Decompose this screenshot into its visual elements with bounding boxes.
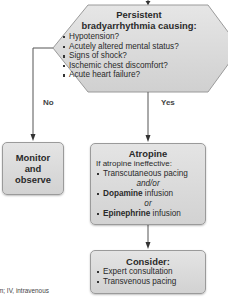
atropine-options-list-3: Epinephrine infusion xyxy=(96,209,200,219)
consider-node: Consider: Expert consultation Transvenou… xyxy=(90,250,206,294)
option-transcutaneous-pacing: Transcutaneous pacing xyxy=(96,169,200,179)
consider-item: Expert consultation xyxy=(96,267,200,277)
decision-criteria-list: Hypotension? Acutely altered mental stat… xyxy=(62,32,222,80)
epinephrine-suffix: infusion xyxy=(150,209,181,218)
footnote: m; IV, intravenous xyxy=(0,287,49,294)
criteria-item: Signs of shock? xyxy=(62,51,222,61)
yes-branch-label: Yes xyxy=(161,98,175,107)
consider-list: Expert consultation Transvenous pacing xyxy=(96,267,200,287)
option-epinephrine: Epinephrine infusion xyxy=(96,209,200,219)
decision-title: Persistent bradyarrhythmia causing: xyxy=(62,9,222,31)
conjunction-or: or xyxy=(96,199,200,209)
atropine-options-list-2: Dopamine infusion xyxy=(96,189,200,199)
consider-item: Transvenous pacing xyxy=(96,277,200,287)
monitor-observe-node: Monitor and observe xyxy=(2,142,64,195)
atropine-title: Atropine xyxy=(96,148,200,159)
option-dopamine: Dopamine infusion xyxy=(96,189,200,199)
conjunction-and-or: and/or xyxy=(96,179,200,189)
no-branch-label: No xyxy=(43,98,54,107)
criteria-item: Hypotension? xyxy=(62,32,222,42)
monitor-line1: Monitor xyxy=(15,152,51,163)
epinephrine-label: Epinephrine xyxy=(103,209,150,218)
dopamine-suffix: infusion xyxy=(143,189,174,198)
monitor-line3: observe xyxy=(15,174,51,185)
criteria-item: Acutely altered mental status? xyxy=(62,42,222,52)
atropine-options-list: Transcutaneous pacing xyxy=(96,169,200,179)
decision-title-line1: Persistent xyxy=(62,9,216,20)
dopamine-label: Dopamine xyxy=(103,189,143,198)
criteria-item: Ischemic chest discomfort? xyxy=(62,61,222,71)
atropine-node: Atropine If atropine ineffective: Transc… xyxy=(90,143,206,225)
consider-title: Consider: xyxy=(96,256,200,267)
criteria-item: Acute heart failure? xyxy=(62,70,222,80)
monitor-line2: and xyxy=(15,163,51,174)
decision-title-line2: bradyarrhythmia causing: xyxy=(62,20,216,31)
atropine-subtitle: If atropine ineffective: xyxy=(96,159,200,169)
decision-node: Persistent bradyarrhythmia causing: Hypo… xyxy=(62,9,222,80)
